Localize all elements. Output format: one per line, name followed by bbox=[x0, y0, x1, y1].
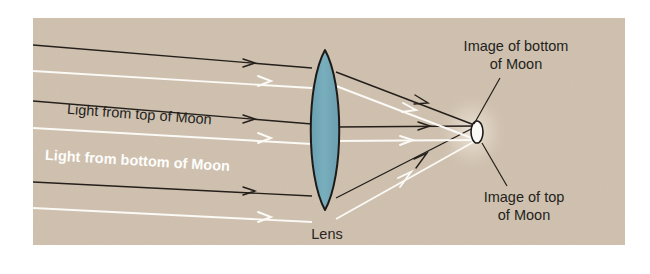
optics-diagram: Light from top of Moon Light from bottom… bbox=[0, 0, 650, 274]
figure-root: Light from top of Moon Light from bottom… bbox=[0, 0, 650, 274]
label-image-of-bottom-line1: Image of bottom bbox=[464, 38, 569, 54]
converging-ray-bottom-2 bbox=[336, 140, 477, 141]
label-image-of-bottom-line2: of Moon bbox=[490, 56, 542, 72]
label-lens: Lens bbox=[311, 226, 342, 242]
converging-ray-top-2 bbox=[336, 126, 477, 127]
label-image-of-top-line2: of Moon bbox=[498, 207, 550, 223]
label-image-of-top-line1: Image of top bbox=[484, 189, 565, 205]
image-point bbox=[471, 121, 483, 143]
